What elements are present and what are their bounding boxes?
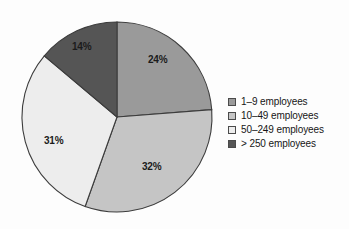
pie-chart-figure: 24% 32% 31% 14% 1–9 employees 10–49 empl… [0, 0, 349, 229]
legend-item-label: > 250 employees [241, 138, 316, 149]
legend-item-label: 50–249 employees [241, 124, 324, 135]
legend-item-label: 10–49 employees [241, 110, 318, 121]
legend-item-label: 1–9 employees [241, 96, 308, 107]
slice-label-1-9-employees: 24% [148, 54, 167, 65]
chart-legend: 1–9 employees 10–49 employees 50–249 emp… [228, 95, 324, 150]
slice-label-over-250-employees: 14% [72, 41, 91, 52]
legend-swatch-icon [228, 112, 236, 120]
legend-swatch-icon [228, 140, 236, 148]
legend-item-10-49-employees[interactable]: 10–49 employees [228, 109, 324, 122]
legend-item-1-9-employees[interactable]: 1–9 employees [228, 95, 324, 108]
legend-item-over-250-employees[interactable]: > 250 employees [228, 137, 324, 150]
slice-label-10-49-employees: 32% [142, 161, 161, 172]
legend-swatch-icon [228, 126, 236, 134]
legend-item-50-249-employees[interactable]: 50–249 employees [228, 123, 324, 136]
pie-slice-1-9-employees[interactable] [117, 22, 212, 117]
legend-swatch-icon [228, 98, 236, 106]
pie-slices [22, 22, 212, 212]
slice-label-50-249-employees: 31% [44, 135, 63, 146]
